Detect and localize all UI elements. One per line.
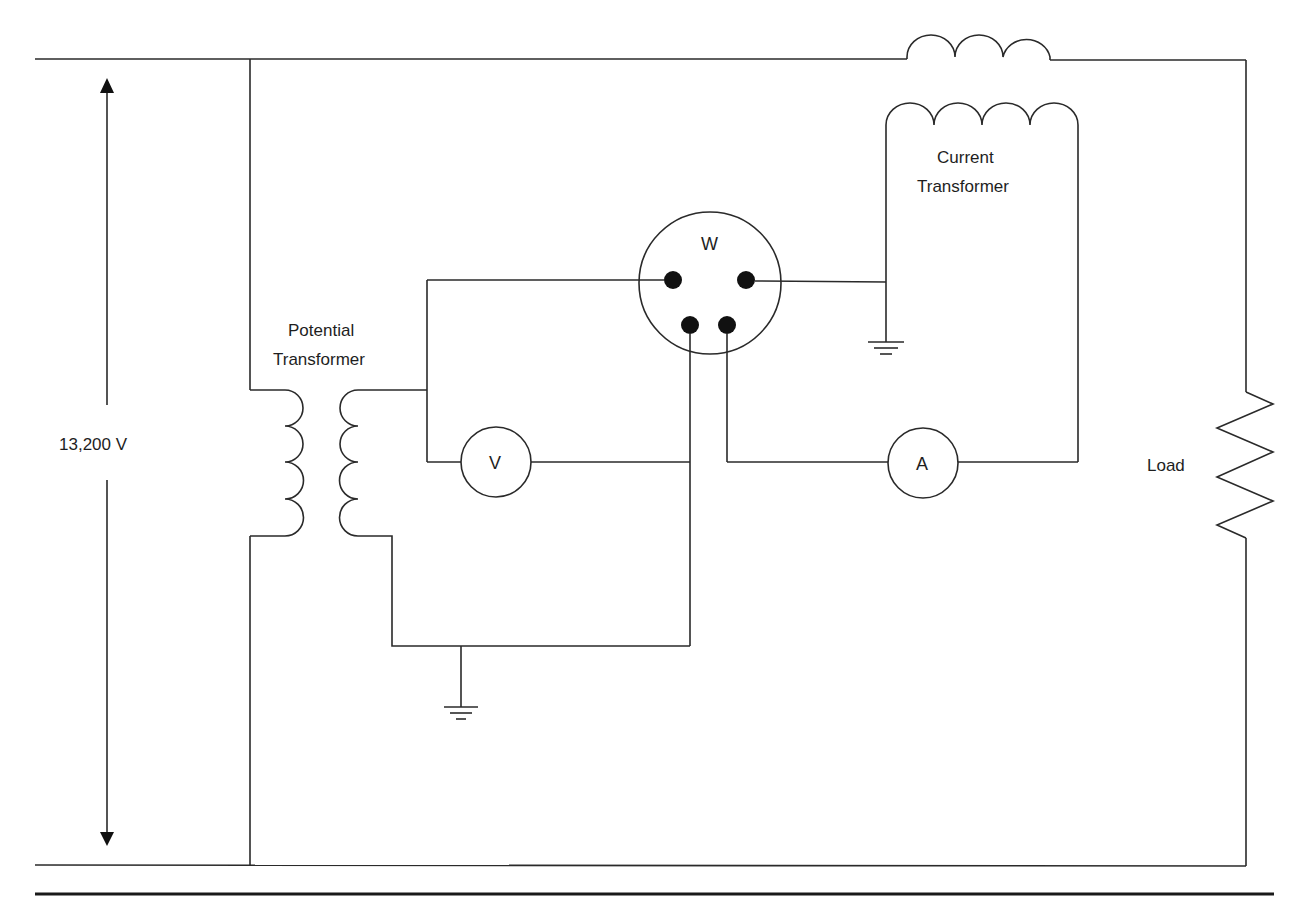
- load-label: Load: [1147, 456, 1185, 475]
- ground-ct-icon: [868, 282, 904, 354]
- voltage-indicator: 13,200 V: [59, 78, 128, 846]
- arrow-down-icon: [100, 832, 114, 846]
- wattmeter: W: [639, 212, 781, 354]
- pt-primary-coil: [250, 390, 304, 536]
- voltage-label: 13,200 V: [59, 435, 128, 454]
- pt-label-line1: Potential: [288, 321, 354, 340]
- wattmeter-terminal-voltage-in: [664, 271, 682, 289]
- resistor-icon: [1217, 392, 1273, 538]
- ct-primary-coil: [907, 35, 1050, 60]
- arrow-up-icon: [100, 78, 114, 93]
- wattmeter-terminal-voltage-common: [681, 316, 699, 334]
- ammeter-label: A: [916, 454, 928, 474]
- ground-pt-icon: [444, 646, 478, 719]
- ct-label-line1: Current: [937, 148, 994, 167]
- wattmeter-label: W: [701, 234, 718, 254]
- ct-label-line2: Transformer: [917, 177, 1009, 196]
- pt-secondary-coil: [340, 390, 690, 646]
- load-resistor: Load: [1147, 392, 1273, 538]
- wattmeter-terminal-current-out: [737, 271, 755, 289]
- pt-label-line2: Transformer: [273, 350, 365, 369]
- ct-secondary: Current Transformer: [886, 103, 1078, 462]
- voltmeter-label: V: [489, 453, 501, 473]
- ammeter-circuit: A: [727, 428, 1078, 498]
- metering-circuit-diagram: 13,200 V Current Transformer W Potentia: [0, 0, 1309, 903]
- bottom-line: [35, 865, 1246, 866]
- wattmeter-terminal-current-in: [718, 316, 736, 334]
